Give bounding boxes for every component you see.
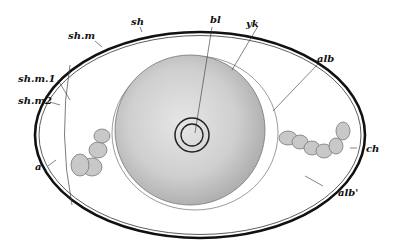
- label-shm1: sh.m.1: [18, 73, 55, 84]
- label-shm2: sh.m2: [18, 95, 52, 106]
- chalaza-right: [279, 122, 350, 158]
- label-sh: sh: [131, 16, 144, 27]
- label-shm: sh.m: [68, 30, 95, 41]
- air-space-membrane: [64, 65, 72, 205]
- yolk: [115, 55, 265, 205]
- label-alb-prime: alb': [338, 187, 358, 198]
- egg-diagram: sh sh.m sh.m.1 sh.m2 bl yk alb a ch alb': [0, 0, 395, 247]
- label-yk: yk: [245, 18, 259, 29]
- label-ch: ch: [366, 143, 379, 154]
- chalaza-left: [71, 129, 110, 176]
- label-alb: alb: [317, 53, 334, 64]
- label-bl: bl: [210, 14, 221, 25]
- label-a: a: [35, 161, 41, 172]
